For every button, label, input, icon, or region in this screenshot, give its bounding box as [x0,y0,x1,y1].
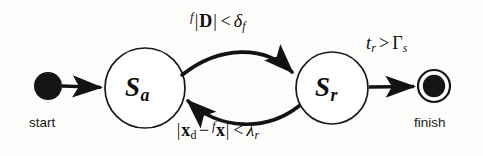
state-a-symbol: Sa [125,72,149,106]
transition-bottom-vector-current: x [216,120,225,140]
state-a-symbol-base: S [125,72,140,102]
transition-top-vector: D [199,11,212,31]
transition-bottom-close-bar: | [225,120,230,140]
transition-right-relation: > [379,33,389,53]
start-node-dot [34,72,62,100]
state-a-symbol-subscript: a [140,85,149,105]
transition-bottom-vector-desired-subscript: d [190,128,196,142]
state-machine-diagram: Sa Sr start finish f|D|<δf |xd−fx|<λr tr… [0,0,483,156]
transition-right-bound: Γ [392,33,403,53]
transition-bottom-operator: − [199,120,209,140]
edge-state-r-to-finish [369,87,414,88]
transition-top-bound-subscript: f [242,19,246,33]
transition-label-right: tr>Γs [366,33,408,56]
transition-right-bound-subscript: s [403,41,408,55]
state-r-symbol-base: S [315,72,330,102]
transition-right-variable-subscript: r [371,41,376,55]
edge-start-to-state-a [62,86,101,87]
transition-bottom-bound: λ [247,120,255,140]
edge-state-a-to-state-r [182,52,292,75]
state-r-symbol: Sr [315,72,337,106]
transition-label-top: f|D|<δf [190,10,246,34]
transition-top-relation: < [221,11,231,31]
finish-label: finish [414,115,446,130]
start-label: start [29,115,55,130]
state-r-symbol-subscript: r [330,85,337,105]
transition-top-close-bar: | [212,11,217,31]
transition-label-bottom: |xd−fx|<λr [176,119,259,143]
finish-node-core [423,75,445,97]
transition-bottom-relation: < [233,120,243,140]
transition-bottom-bound-subscript: r [255,128,260,142]
